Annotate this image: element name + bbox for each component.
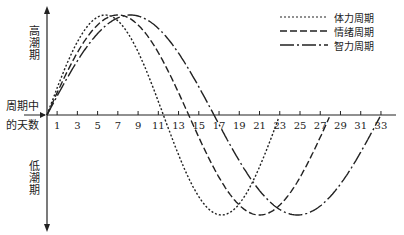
y-axis-arrow-down-icon [44, 224, 50, 232]
x-tick-label: 19 [233, 120, 246, 131]
legend-item-emotional: 情绪周期 [280, 24, 374, 38]
high-period-label: 高潮期 [27, 25, 39, 61]
x-tick-label: 25 [294, 120, 307, 131]
x-tick-label: 1 [54, 120, 60, 131]
x-tick-label: 9 [135, 120, 141, 131]
x-axis-label-line1: 周期中 [6, 101, 39, 113]
x-tick-label: 13 [172, 120, 185, 131]
x-tick-label: 23 [273, 120, 286, 131]
low-period-label: 低潮期 [27, 160, 39, 196]
y-axis-arrow-up-icon [44, 6, 50, 14]
dash-dot-line-icon [280, 42, 328, 48]
x-tick-label: 29 [334, 120, 347, 131]
x-tick-label: 33 [375, 120, 388, 131]
x-tick-label: 21 [253, 120, 266, 131]
x-tick-label: 27 [314, 120, 327, 131]
x-tick-label: 11 [152, 120, 165, 131]
x-tick-label: 31 [354, 120, 367, 131]
legend-item-physical: 体力周期 [280, 10, 374, 24]
dashed-line-icon [280, 28, 328, 34]
legend-label: 智力周期 [334, 38, 374, 53]
legend-label: 体力周期 [334, 10, 374, 25]
x-label-arrow-icon [40, 112, 46, 118]
x-tick-label: 5 [94, 120, 100, 131]
x-axis-label-line2: 的天数 [6, 120, 39, 132]
dotted-line-icon [280, 14, 328, 20]
legend-item-intellectual: 智力周期 [280, 38, 374, 52]
legend-label: 情绪周期 [334, 24, 374, 39]
x-tick-label: 7 [115, 120, 121, 131]
x-tick-label: 15 [192, 120, 205, 131]
legend: 体力周期 情绪周期 智力周期 [280, 10, 374, 52]
x-tick-label: 3 [74, 120, 80, 131]
